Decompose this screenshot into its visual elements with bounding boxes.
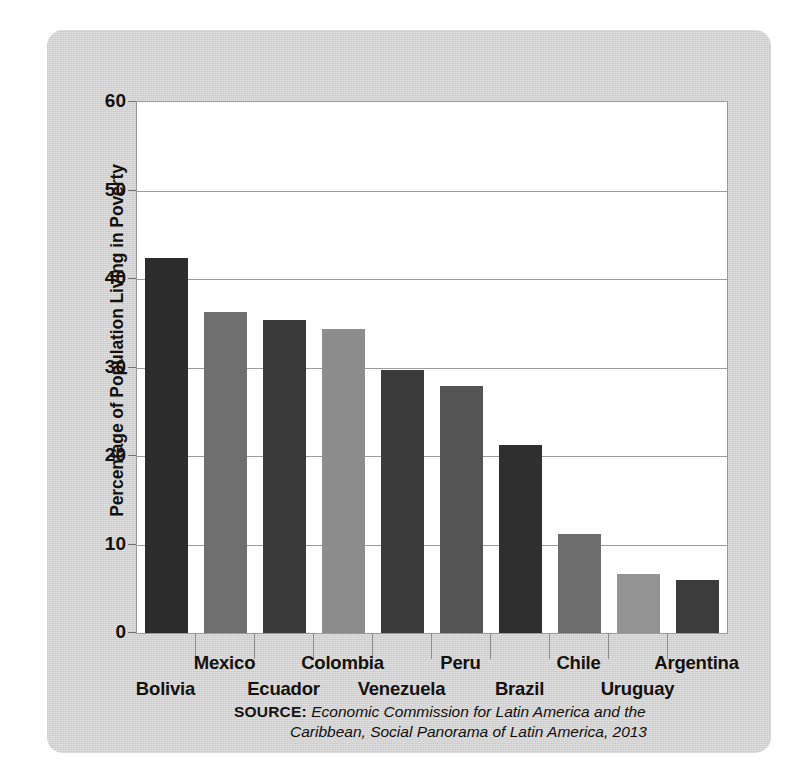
source-line-1: Economic Commission for Latin America an… — [311, 703, 646, 720]
y-tick-label: 50 — [105, 179, 126, 201]
x-axis-category-labels: BoliviaMexicoEcuadorColombiaVenezuelaPer… — [136, 634, 728, 698]
x-label-colombia: Colombia — [301, 652, 384, 674]
bar-bolivia — [145, 258, 187, 633]
y-tick-label: 10 — [105, 533, 126, 555]
bar-colombia — [322, 329, 364, 633]
x-label-chile: Chile — [556, 652, 600, 674]
y-tick-mark — [128, 278, 136, 279]
figure-card: Percentage of Population Living in Pover… — [47, 30, 771, 753]
bar-brazil — [499, 445, 541, 633]
bar-mexico — [204, 312, 246, 633]
bar-uruguay — [617, 574, 659, 633]
y-axis-tick-labels: 0102030405060 — [47, 30, 136, 753]
source-label: SOURCE: — [234, 703, 307, 720]
bars-layer — [137, 102, 727, 633]
x-label-peru: Peru — [440, 652, 480, 674]
plot-area — [136, 101, 728, 634]
bar-peru — [440, 386, 482, 633]
x-label-argentina: Argentina — [654, 652, 739, 674]
y-tick-mark — [128, 455, 136, 456]
y-tick-mark — [128, 367, 136, 368]
y-tick-mark — [128, 101, 136, 102]
y-tick-label: 40 — [105, 267, 126, 289]
x-label-ecuador: Ecuador — [247, 678, 320, 700]
x-label-venezuela: Venezuela — [358, 678, 446, 700]
source-note: SOURCE: Economic Commission for Latin Am… — [234, 702, 744, 743]
bar-argentina — [676, 580, 718, 633]
y-tick-mark — [128, 544, 136, 545]
bar-chile — [558, 534, 600, 633]
bar-ecuador — [263, 320, 305, 633]
y-tick-label: 0 — [115, 621, 126, 643]
y-tick-label: 20 — [105, 444, 126, 466]
source-line-2: Caribbean, Social Panorama of Latin Amer… — [290, 722, 744, 742]
y-tick-label: 60 — [105, 90, 126, 112]
bar-venezuela — [381, 370, 423, 633]
x-label-mexico: Mexico — [194, 652, 256, 674]
x-label-uruguay: Uruguay — [601, 678, 675, 700]
y-tick-mark — [128, 190, 136, 191]
x-label-bolivia: Bolivia — [136, 678, 195, 700]
x-label-brazil: Brazil — [495, 678, 544, 700]
y-tick-mark — [128, 632, 136, 633]
y-tick-label: 30 — [105, 356, 126, 378]
poverty-bar-chart: Percentage of Population Living in Pover… — [47, 30, 771, 753]
